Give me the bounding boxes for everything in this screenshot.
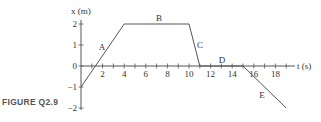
segment-label-e: E <box>259 90 265 100</box>
x-axis-label: t (s) <box>297 61 311 71</box>
figure-caption: FIGURE Q2.9 <box>2 97 58 107</box>
x-tick-label: 6 <box>144 69 149 79</box>
segment-labels: ABCDE <box>99 13 266 100</box>
segment-label-a: A <box>99 42 106 52</box>
y-tick-label: −1 <box>67 82 77 92</box>
y-axis-label: x (m) <box>71 6 91 16</box>
segment-label-c: C <box>197 40 203 50</box>
x-tick-label: 12 <box>206 69 215 79</box>
segment-label-d: D <box>219 55 226 65</box>
y-tick-label: 2 <box>73 19 78 29</box>
segment-label-b: B <box>156 13 162 23</box>
x-tick-label: 8 <box>165 69 170 79</box>
x-tick-label: 2 <box>100 69 105 79</box>
x-tick-label: 18 <box>271 69 281 79</box>
x-tick-label: 4 <box>122 69 127 79</box>
x-tick-label: 10 <box>185 69 195 79</box>
x-tick-label: 14 <box>228 69 238 79</box>
y-tick-label: 1 <box>73 40 78 50</box>
y-tick-label: −2 <box>67 103 77 113</box>
y-tick-label: 0 <box>73 61 78 71</box>
